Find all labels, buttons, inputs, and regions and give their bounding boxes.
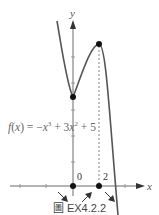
figure-caption: 圖 EX4.2.2 xyxy=(0,199,159,215)
local-min-point xyxy=(70,94,76,100)
local-max-point xyxy=(96,41,102,47)
x-axis-arrow-icon xyxy=(136,183,145,189)
x-axis-label: x xyxy=(146,180,152,192)
x-axis: x 0 2 xyxy=(10,171,152,192)
x-tick-label-0: 0 xyxy=(77,171,82,182)
function-formula: f(x) = −x3 + 3x2 + 5 xyxy=(8,120,96,134)
x-axis-point-0 xyxy=(70,183,76,189)
cubic-function-graph: y x 0 2 f(x) = −x3 + 3x2 + 5 xyxy=(0,0,159,215)
y-axis-arrow-icon xyxy=(70,20,76,29)
x-axis-point-2 xyxy=(96,183,102,189)
x-tick-label-2: 2 xyxy=(103,171,108,182)
y-axis-label: y xyxy=(69,7,75,19)
y-axis: y xyxy=(69,7,76,196)
